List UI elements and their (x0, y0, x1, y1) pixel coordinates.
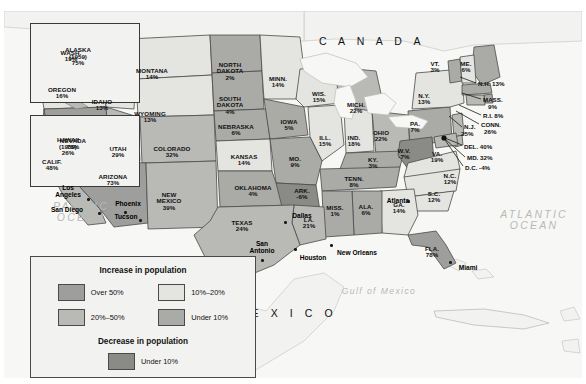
legend-item-over50: Over 50% (58, 284, 125, 301)
city-dot-san-diego[interactable] (98, 212, 101, 215)
legend-increase-title: Increase in population (31, 266, 255, 275)
legend-swatch-20to50 (58, 309, 85, 326)
legend-item-decrease: Under 10% (31, 353, 255, 370)
state-ks[interactable] (216, 139, 272, 171)
legend-box: Increase in population Over 50% 20%–50% (30, 256, 256, 378)
city-dot-houston[interactable] (294, 248, 297, 251)
state-vt[interactable] (448, 59, 462, 83)
legend-label-10to20: 10%–20% (191, 288, 225, 297)
legend-label-decrease: Under 10% (141, 357, 178, 366)
hawaii-inset-label: HAWAII (1959) 26% (34, 137, 102, 157)
legend-swatch-decrease (108, 353, 135, 370)
legend-swatch-over50 (58, 284, 85, 301)
state-nm[interactable] (146, 161, 218, 229)
state-wy[interactable] (136, 75, 214, 117)
state-ms[interactable] (322, 191, 354, 237)
state-co[interactable] (140, 115, 216, 163)
legend-label-under10: Under 10% (191, 313, 228, 322)
legend-swatch-10to20 (158, 284, 185, 301)
state-nd[interactable] (210, 35, 262, 73)
city-dot-atlanta[interactable] (407, 200, 410, 203)
legend-decrease-title: Decrease in population (31, 337, 255, 346)
legend-item-20to50: 20%–50% (58, 309, 125, 326)
state-tn[interactable] (320, 167, 400, 191)
city-dot-new-orleans[interactable] (330, 244, 333, 247)
city-dot-dallas[interactable] (284, 221, 287, 224)
state-ne[interactable] (214, 109, 270, 141)
city-dot-phoenix[interactable] (124, 211, 127, 214)
city-dot-los-angeles[interactable] (87, 198, 90, 201)
state-ri[interactable] (484, 94, 493, 103)
legend-item-10to20: 10%–20% (158, 284, 228, 301)
state-nh[interactable] (460, 55, 476, 83)
legend-item-under10: Under 10% (158, 309, 228, 326)
map-canvas: ALASKA (1959) 75% HAWAII (1959) 26% C A … (4, 11, 582, 378)
legend-label-over50: Over 50% (91, 288, 124, 297)
legend-swatch-under10 (158, 309, 185, 326)
state-ct[interactable] (466, 95, 485, 105)
state-ma[interactable] (462, 83, 492, 95)
map-figure: ALASKA (1959) 75% HAWAII (1959) 26% C A … (0, 0, 586, 384)
city-dot-san-antonio[interactable] (261, 259, 264, 262)
city-dot-miami[interactable] (449, 261, 452, 264)
state-al[interactable] (352, 191, 382, 235)
state-sd[interactable] (212, 71, 264, 111)
city-dot-tucson[interactable] (139, 219, 142, 222)
alaska-inset-label: ALASKA (1959) 75% (40, 47, 116, 67)
legend-label-20to50: 20%–50% (91, 313, 125, 322)
